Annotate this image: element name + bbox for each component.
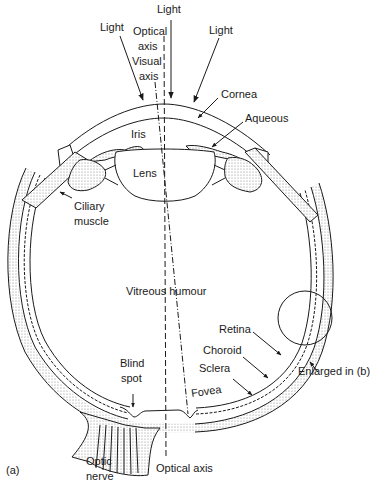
optical-axis-label-bottom: Optical axis: [156, 462, 213, 475]
retina-leader: [253, 332, 281, 355]
light-arrow-right: [194, 38, 219, 102]
aqueous-label: Aqueous: [245, 112, 288, 125]
ciliary-muscle-label-2: muscle: [74, 215, 109, 228]
vitreous-humour-label: Vitreous humour: [126, 285, 207, 298]
light-label-left: Light: [100, 21, 124, 34]
visual-axis-label-2: axis: [139, 70, 159, 83]
sclera-leader: [233, 379, 252, 395]
light-label-center: Light: [157, 3, 181, 16]
cornea-label: Cornea: [221, 88, 257, 101]
eye-cross-section-diagram: [0, 0, 378, 488]
ciliary-leader: [60, 192, 72, 198]
optic-nerve-label-2: nerve: [86, 470, 114, 483]
retina-label: Retina: [219, 323, 251, 336]
light-label-right: Light: [209, 24, 233, 37]
panel-label: (a): [6, 464, 19, 477]
optical-axis-label-top: Optical: [133, 25, 167, 38]
optical-axis-label-top-2: axis: [138, 40, 158, 53]
blind-spot-label: Blind: [120, 357, 144, 370]
optical-axis-line: [164, 36, 166, 458]
optic-nerve-label: Optic: [86, 455, 112, 468]
blind-spot-dip: [120, 407, 198, 418]
enlarged-label: Enlarged in (b): [298, 365, 370, 378]
cornea-leader: [198, 98, 218, 118]
aqueous-leader: [212, 122, 243, 147]
sclera-label: Sclera: [199, 362, 230, 375]
blind-spot-label-2: spot: [121, 372, 142, 385]
visual-axis-label: Visual: [132, 55, 162, 68]
visual-axis-line: [155, 82, 188, 414]
choroid-leader: [243, 357, 268, 378]
iris-label: Iris: [131, 128, 146, 141]
lens-label: Lens: [133, 167, 157, 180]
ciliary-muscle-label: Ciliary: [74, 200, 105, 213]
choroid-label: Choroid: [203, 344, 242, 357]
